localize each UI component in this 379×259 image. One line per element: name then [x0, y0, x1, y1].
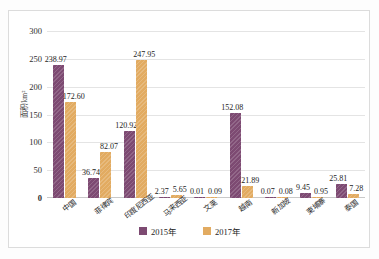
bar-group: 152.0821.89: [224, 31, 259, 198]
bar[interactable]: 238.97: [53, 65, 64, 198]
bar-value-label: 21.89: [241, 177, 259, 185]
bar-group: 0.070.08: [259, 31, 294, 198]
bar-group: 36.7482.07: [82, 31, 117, 198]
bar[interactable]: 0.01: [194, 197, 205, 198]
legend-color-swatch: [139, 227, 147, 235]
bar-value-label: 0.09: [208, 188, 222, 196]
y-axis-tick-label: 150: [29, 110, 42, 120]
bar-group: 0.010.09: [188, 31, 223, 198]
bar-group: 2.375.65: [153, 31, 188, 198]
bar-value-label: 2.37: [155, 188, 169, 196]
bar[interactable]: 2.37: [159, 197, 170, 198]
x-axis-tick-label: 文莱: [200, 197, 218, 214]
bar-group: 9.450.95: [294, 31, 329, 198]
bar-value-label: 0.01: [190, 188, 204, 196]
y-axis-tick-label: 0: [38, 193, 42, 203]
bar[interactable]: 36.74: [88, 178, 99, 198]
legend-label: 2017年: [215, 225, 241, 237]
bar[interactable]: 120.92: [124, 131, 135, 198]
bar[interactable]: 172.60: [65, 102, 76, 198]
bar-group: 238.97172.60: [47, 31, 82, 198]
chart-plot-frame: 面积/km² 050100150200250300 238.97172.6036…: [8, 10, 370, 248]
legend-item[interactable]: 2015年: [139, 225, 177, 237]
bar-value-label: 7.28: [349, 185, 363, 193]
x-axis-tick-label: 越南: [236, 197, 254, 214]
plot-area: 050100150200250300 238.97172.6036.7482.0…: [47, 31, 365, 198]
bar-group: 25.817.28: [330, 31, 365, 198]
y-axis-tick-label: 200: [29, 82, 42, 92]
bar[interactable]: 9.45: [300, 193, 311, 198]
bar-value-label: 152.08: [221, 104, 243, 112]
bar[interactable]: 152.08: [230, 113, 241, 198]
legend-item[interactable]: 2017年: [203, 225, 241, 237]
y-axis-tick-label: 250: [29, 54, 42, 64]
legend-color-swatch: [203, 227, 211, 235]
bar-value-label: 0.07: [261, 188, 275, 196]
bar-value-label: 9.45: [296, 184, 310, 192]
bar-value-label: 238.97: [45, 56, 67, 64]
bar-groups: 238.97172.6036.7482.07120.92247.952.375.…: [47, 31, 365, 198]
bar-value-label: 82.07: [100, 143, 118, 151]
bar[interactable]: 82.07: [100, 152, 111, 198]
bar-value-label: 120.92: [115, 122, 137, 130]
bar-chart: 面积/km² 050100150200250300 238.97172.6036…: [0, 0, 379, 259]
bar-value-label: 25.81: [329, 175, 347, 183]
x-axis-tick-label: 泰国: [342, 197, 360, 214]
y-axis-tick-label: 50: [34, 165, 43, 175]
bar[interactable]: 25.81: [336, 184, 347, 198]
x-axis-tick-label: 中国: [59, 197, 77, 214]
chart-legend: 2015年2017年: [9, 225, 371, 237]
bar[interactable]: 247.95: [136, 60, 147, 198]
y-axis-tick-label: 100: [29, 137, 42, 147]
bar-value-label: 36.74: [82, 169, 100, 177]
y-axis-tick-label: 300: [29, 26, 42, 36]
bar[interactable]: 21.89: [242, 186, 253, 198]
bar-group: 120.92247.95: [118, 31, 153, 198]
y-axis-title: 面积/km²: [18, 75, 29, 135]
bar[interactable]: 0.07: [265, 197, 276, 198]
legend-label: 2015年: [151, 225, 177, 237]
